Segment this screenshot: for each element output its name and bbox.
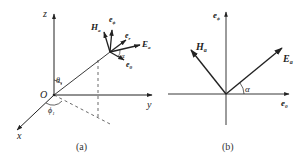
radial-line (54, 52, 110, 95)
caption-b: (b) (222, 141, 234, 153)
origin-point (53, 94, 56, 97)
x-label: x (16, 130, 22, 141)
e-phi-label-a: eϕ (109, 15, 116, 25)
H-label-a: Ha (90, 22, 101, 33)
alpha-label-b: α (245, 84, 250, 94)
H-vector (104, 32, 110, 52)
panel-a: z y x O θ1 ϕ1 Ha eϕ er Ea eθ α (a) (16, 8, 152, 153)
E-label-b: Ea (282, 53, 293, 65)
phi-label: ϕ1 (48, 106, 55, 116)
E-vector-b (226, 48, 282, 94)
e-theta-label-b: eθ (281, 98, 288, 109)
caption-a: (a) (76, 141, 87, 153)
phi-arc (46, 101, 62, 105)
z-label: z (42, 8, 47, 19)
alpha-label-a: α (121, 52, 125, 60)
panel-b: eϕ eθ Ha Ea α (b) (168, 10, 293, 153)
e-theta-label-a: eθ (126, 60, 133, 70)
H-label-b: Ha (195, 41, 207, 53)
figure-canvas: z y x O θ1 ϕ1 Ha eϕ er Ea eθ α (a) eϕ eθ… (0, 0, 304, 161)
alpha-arc-a (118, 50, 120, 57)
origin-label: O (40, 89, 47, 100)
E-label-a: Ea (141, 39, 151, 50)
H-vector-b (191, 50, 226, 94)
diagram-svg: z y x O θ1 ϕ1 Ha eϕ er Ea eθ α (a) eϕ eθ… (0, 0, 304, 161)
e-r-label-a: er (125, 31, 131, 41)
e-phi-label-b: eϕ (213, 10, 220, 21)
e-phi-vector (110, 30, 112, 52)
y-label: y (146, 99, 152, 110)
projection-xy (54, 95, 112, 125)
theta-label: θ1 (56, 76, 62, 86)
alpha-arc-b (240, 83, 244, 94)
